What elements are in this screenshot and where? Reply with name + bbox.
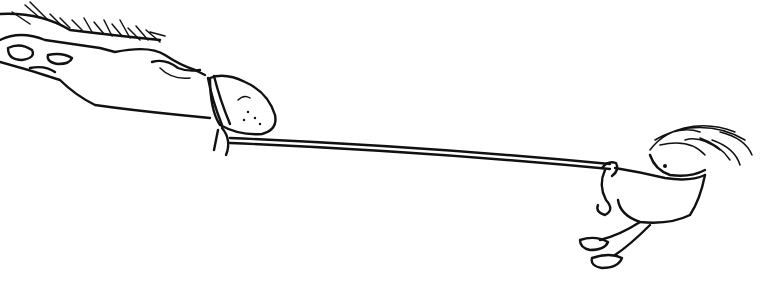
child [580,126,752,268]
horse-nostril [238,96,250,100]
halter-knot [214,128,228,155]
child-body [618,175,705,223]
child-hair [650,126,752,165]
horse-head-outline [0,35,210,118]
child-legs [600,222,650,255]
rope [230,138,610,169]
horse-muzzle [210,76,275,135]
child-shoe-left [580,238,608,250]
child-face [650,155,705,176]
horse [0,2,275,155]
child-shoe-right [592,255,622,268]
rope-coil [597,170,610,215]
illustration [0,0,781,301]
